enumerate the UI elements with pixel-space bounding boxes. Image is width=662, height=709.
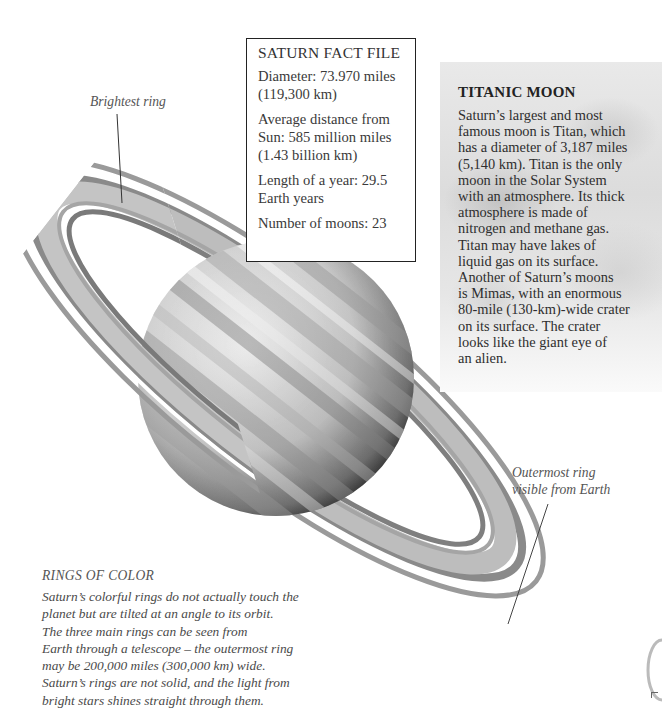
fact-distance: Average distance from Sun: 585 million m… — [258, 110, 415, 164]
fact-moons: Number of moons: 23 — [258, 214, 415, 232]
fact-diameter: Diameter: 73.970 miles (119,300 km) — [258, 67, 415, 103]
fact-year-length: Length of a year: 29.5 Earth years — [258, 171, 415, 207]
rings-of-color-title: RINGS OF COLOR — [42, 568, 332, 584]
titanic-moon-panel: TITANIC MOON Saturn’s largest and most f… — [440, 62, 662, 392]
titanic-moon-body: Saturn’s largest and most famous moon is… — [458, 107, 652, 366]
page-corner-mark — [651, 692, 658, 698]
titanic-moon-title: TITANIC MOON — [458, 84, 652, 101]
edge-fragment — [648, 640, 662, 700]
rings-of-color-body: Saturn’s colorful rings do not actually … — [42, 588, 332, 709]
brightest-ring-label: Brightest ring — [90, 93, 166, 110]
saturn-fact-file: SATURN FACT FILE Diameter: 73.970 miles … — [246, 38, 416, 262]
fact-file-title: SATURN FACT FILE — [258, 44, 415, 62]
outermost-ring-label: Outermost ring visible from Earth — [512, 464, 610, 498]
rings-of-color-caption: RINGS OF COLOR Saturn’s colorful rings d… — [42, 568, 332, 709]
